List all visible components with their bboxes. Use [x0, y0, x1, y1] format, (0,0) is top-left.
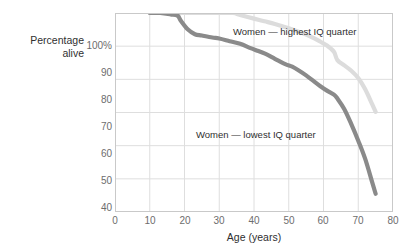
x-tick-label-70: 70: [346, 216, 370, 226]
y-tick-label-60: 60: [86, 149, 112, 159]
y-tick-label-40: 40: [86, 203, 112, 213]
y-tick-label-70: 70: [86, 122, 112, 132]
y-axis-title: Percentage alive: [6, 34, 84, 59]
y-tick-label-80: 80: [86, 95, 112, 105]
series-annotation-highest-iq: Women — highest IQ quarter: [233, 26, 356, 37]
x-tick-label-50: 50: [277, 216, 301, 226]
y-tick-label-90: 90: [86, 68, 112, 78]
x-tick-label-30: 30: [207, 216, 231, 226]
x-tick-label-80: 80: [381, 216, 405, 226]
series-annotation-lowest-iq: Women — lowest IQ quarter: [196, 129, 316, 140]
y-tick-label-50: 50: [86, 176, 112, 186]
y-axis-title-line2: alive: [6, 47, 84, 60]
y-tick-label-100: 100%: [86, 41, 112, 51]
x-tick-label-10: 10: [138, 216, 162, 226]
x-axis-title: Age (years): [115, 231, 393, 243]
y-axis-title-line1: Percentage: [6, 34, 84, 47]
chart-figure: Percentage alive 100% 90 80 70 60 50 40 …: [0, 0, 418, 252]
x-tick-label-40: 40: [242, 216, 266, 226]
plot-area: [115, 13, 393, 212]
x-tick-label-60: 60: [311, 216, 335, 226]
x-tick-label-20: 20: [173, 216, 197, 226]
x-tick-label-0: 0: [103, 216, 127, 226]
